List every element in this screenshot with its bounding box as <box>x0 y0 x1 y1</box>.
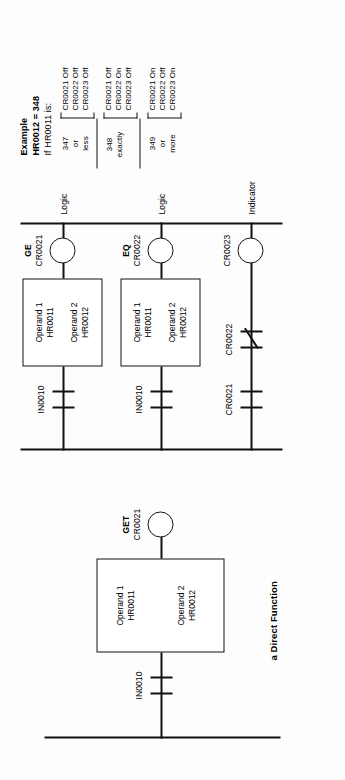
instruction-label-get: GET <box>120 494 130 554</box>
example-case-2-condition-mid: exactly <box>114 120 124 168</box>
power-rail-left-1 <box>44 737 280 739</box>
operand2-name-get: Operand 2 <box>175 558 186 652</box>
example-case-3-result-1: CR0021 On <box>147 67 157 110</box>
operand2-name-ge: Operand 2 <box>68 278 79 366</box>
example-case-1-result-1: CR0021 Off <box>60 67 70 110</box>
coil-cr0022-eq[interactable] <box>147 237 173 263</box>
operand2-value-eq: HR0012 <box>177 278 188 366</box>
operand2-value-get: HR0012 <box>186 558 197 652</box>
example-divider-2 <box>139 118 140 168</box>
example-line2: If HR0011 is: <box>42 102 52 155</box>
coil-label-get: CR0021 <box>131 494 141 554</box>
example-case-2-condition-top: 348 <box>104 120 114 168</box>
operand1-value-get: HR0011 <box>125 558 136 652</box>
example-case-2-brace <box>103 112 137 118</box>
ladder-diagram-canvas: IN0010 Operand 1 HR0011 Operand 2 HR0012… <box>0 0 345 780</box>
operand1-name-get: Operand 1 <box>114 558 125 652</box>
contact-label-in0010-get: IN0010 <box>133 655 143 715</box>
operand1-value-eq: HR0011 <box>142 278 153 366</box>
example-case-1-condition-top: 347 <box>60 123 70 163</box>
operand1-value-ge: HR0011 <box>44 278 55 366</box>
coil-type-ge: Logic <box>58 193 68 214</box>
example-divider-1 <box>96 118 97 168</box>
example-case-1-brace <box>60 112 94 118</box>
example-case-3-result-2: CR0022 Off <box>157 67 167 110</box>
contact-label-in0010-eq: IN0010 <box>133 369 143 429</box>
example-case-2-result-1: CR0021 Off <box>103 67 113 110</box>
contact-in0010-eq[interactable] <box>150 390 172 408</box>
coil-cr0023-indicator[interactable] <box>237 237 263 263</box>
example-heading: Example <box>18 117 28 155</box>
example-case-2-result-2: CR0022 On <box>113 67 123 110</box>
example-case-2-result-3: CR0023 Off <box>123 67 133 110</box>
operand1-name-ge: Operand 1 <box>33 278 44 366</box>
coil-type-indicator: Indicator <box>246 180 256 214</box>
example-case-1-condition-bot: less <box>80 123 90 163</box>
coil-cr0021-get[interactable] <box>147 511 173 537</box>
instruction-label-ge: GE <box>22 220 32 280</box>
example-case-1-condition-mid: or <box>70 123 80 163</box>
coil-label-eq: CR0022 <box>131 220 141 280</box>
coil-cr0021-ge[interactable] <box>49 237 75 263</box>
contact-label-cr0021-indicator: CR0021 <box>223 369 233 429</box>
contact-in0010-ge[interactable] <box>52 390 74 408</box>
operand2-value-ge: HR0012 <box>79 278 90 366</box>
example-case-3-brace <box>147 112 181 118</box>
power-rail-left-2 <box>20 449 282 451</box>
example-case-3-condition-bot: more <box>167 123 177 163</box>
contact-cr0022-indicator[interactable] <box>240 330 262 348</box>
operand2-name-eq: Operand 2 <box>166 278 177 366</box>
coil-label-indicator: CR0023 <box>221 220 231 280</box>
diagram-page: IN0010 Operand 1 HR0011 Operand 2 HR0012… <box>0 0 345 780</box>
contact-cr0021-indicator[interactable] <box>240 390 262 408</box>
coil-type-eq: Logic <box>156 193 166 214</box>
operand1-name-eq: Operand 1 <box>131 278 142 366</box>
coil-label-ge: CR0021 <box>33 220 43 280</box>
example-case-3-condition-top: 349 <box>147 123 157 163</box>
instruction-label-eq: EQ <box>120 220 130 280</box>
example-case-3-condition-mid: or <box>157 123 167 163</box>
contact-label-in0010-ge: IN0010 <box>35 369 45 429</box>
contact-in0010-get[interactable] <box>150 676 172 694</box>
example-line1: HR0012 = 348 <box>30 96 40 156</box>
diagram-caption: a Direct Function <box>268 581 278 660</box>
example-case-1-result-2: CR0022 Off <box>70 67 80 110</box>
contact-label-cr0022-indicator: CR0022 <box>223 309 233 369</box>
example-case-1-result-3: CR0023 Off <box>80 67 90 110</box>
example-case-3-result-3: CR0023 On <box>167 67 177 110</box>
power-rail-right-2 <box>20 223 282 225</box>
